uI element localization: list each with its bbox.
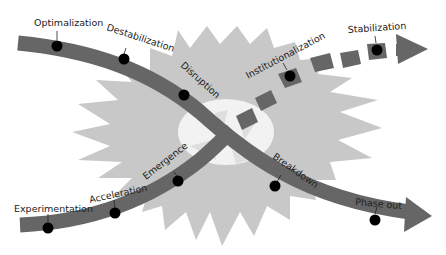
stage-label: Optimalization (34, 17, 103, 28)
stage-label: Stabilization (347, 20, 406, 35)
stage-label: Destabilization (105, 21, 176, 53)
stage-label: Experimentation (14, 203, 93, 214)
transition-diagram: Optimalization Destabilization Disruptio… (0, 0, 446, 255)
emerging-arrow-shaft-end (396, 44, 402, 56)
declining-arrow-head (404, 197, 432, 232)
